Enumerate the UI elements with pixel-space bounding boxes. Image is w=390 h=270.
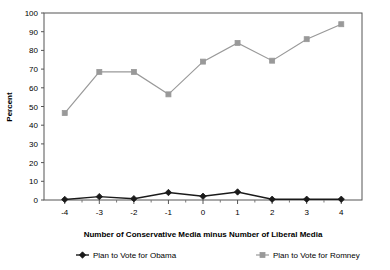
legend-marker-icon <box>79 252 85 258</box>
y-axis-ticks: 0102030405060708090100 <box>25 9 44 205</box>
legend-item-1: Plan to Vote for Obama <box>76 251 177 260</box>
x-tick-label: 4 <box>339 208 344 217</box>
data-point-marker <box>303 196 309 202</box>
y-axis-title: Percent <box>5 92 14 122</box>
x-tick-label: -3 <box>96 208 104 217</box>
data-point-marker <box>165 189 171 195</box>
line-chart-figure: Percent 0102030405060708090100 -4-3-2-10… <box>0 0 390 270</box>
legend-marker-icon <box>260 253 265 258</box>
data-point-marker <box>270 58 275 63</box>
data-point-marker <box>62 196 68 202</box>
y-tick-label: 100 <box>25 9 39 18</box>
legend-item-label: Plan to Vote for Obama <box>93 251 177 260</box>
plot-area-border <box>44 13 362 200</box>
series-2 <box>62 22 344 116</box>
chart-legend: Plan to Vote for ObamaPlan to Vote for R… <box>76 251 360 260</box>
data-point-marker <box>96 193 102 199</box>
y-tick-label: 20 <box>29 159 38 168</box>
x-tick-label: 0 <box>201 208 206 217</box>
y-tick-label: 80 <box>29 46 38 55</box>
data-series-layer <box>62 22 345 203</box>
y-tick-label: 70 <box>29 65 38 74</box>
x-tick-label: 1 <box>235 208 240 217</box>
x-axis-title: Number of Conservative Media minus Numbe… <box>84 230 323 239</box>
data-point-marker <box>200 193 206 199</box>
data-point-marker <box>235 40 240 45</box>
data-point-marker <box>269 196 275 202</box>
y-tick-label: 30 <box>29 140 38 149</box>
x-tick-label: 2 <box>270 208 275 217</box>
y-tick-label: 40 <box>29 121 38 130</box>
y-tick-label: 10 <box>29 177 38 186</box>
data-point-marker <box>62 111 67 116</box>
data-point-marker <box>339 22 344 27</box>
data-point-marker <box>201 59 206 64</box>
series-line <box>65 24 342 113</box>
y-tick-label: 0 <box>34 196 39 205</box>
x-tick-label: 3 <box>304 208 309 217</box>
x-axis-ticks: -4-3-2-101234 <box>61 200 344 217</box>
legend-item-label: Plan to Vote for Romney <box>273 251 360 260</box>
data-point-marker <box>131 69 136 74</box>
data-point-marker <box>97 69 102 74</box>
data-point-marker <box>131 195 137 201</box>
x-tick-label: -2 <box>130 208 138 217</box>
y-tick-label: 60 <box>29 84 38 93</box>
x-tick-label: -4 <box>61 208 69 217</box>
chart-container: Percent 0102030405060708090100 -4-3-2-10… <box>0 0 390 270</box>
data-point-marker <box>338 196 344 202</box>
data-point-marker <box>234 189 240 195</box>
y-tick-label: 50 <box>29 103 38 112</box>
x-tick-label: -1 <box>165 208 173 217</box>
data-point-marker <box>304 37 309 42</box>
y-tick-label: 90 <box>29 28 38 37</box>
data-point-marker <box>166 92 171 97</box>
legend-item-2: Plan to Vote for Romney <box>256 251 360 260</box>
